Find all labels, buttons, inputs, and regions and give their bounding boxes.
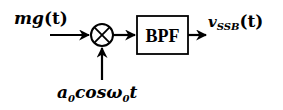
input-signal-label: mg(t)	[14, 8, 68, 28]
ssb-block-diagram: mg(t) BPF vSSB(t) a0cosω0t	[0, 0, 283, 110]
bpf-block: BPF	[137, 16, 188, 54]
carrier-signal-label: a0cosω0t	[57, 82, 137, 104]
mixer-icon	[91, 24, 113, 46]
bpf-label: BPF	[146, 26, 180, 46]
output-signal-label: vSSB(t)	[208, 11, 263, 32]
